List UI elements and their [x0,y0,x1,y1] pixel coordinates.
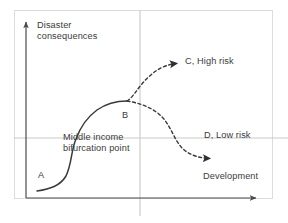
bifurcation-label-line-2: bifurcation point [63,143,130,154]
y-axis-label: Disaster consequences [37,20,97,41]
bifurcation-diagram: Disaster consequences Development A B C,… [0,0,288,223]
y-axis-label-line-1: Disaster [37,20,97,31]
branch-c-label: C, High risk [185,56,234,67]
high-risk-branch [127,64,176,102]
point-b-label: B [122,110,128,121]
y-axis-label-line-2: consequences [37,31,97,42]
bifurcation-label-line-1: Middle income [63,132,130,143]
bifurcation-point-label: Middle income bifurcation point [63,132,130,153]
branch-d-label: D, Low risk [204,130,251,141]
low-risk-branch [127,101,209,159]
x-axis-label: Development [203,171,258,182]
point-a-label: A [38,170,44,181]
